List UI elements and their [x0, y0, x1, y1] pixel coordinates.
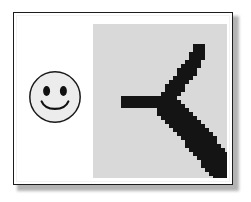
framed-figure-card: Smiley face Pixelated branch junction	[13, 12, 233, 185]
smiley-face-icon	[28, 70, 82, 124]
smiley-panel: Smiley face	[14, 13, 94, 184]
pixel-grid	[93, 24, 227, 178]
figure-root: Smiley face Pixelated branch junction	[0, 0, 251, 202]
pixelated-zoom-panel: Pixelated branch junction	[93, 24, 227, 178]
